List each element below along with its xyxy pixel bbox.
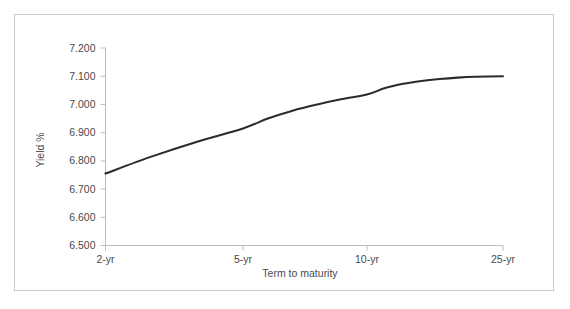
- y-tick-label: 7.200: [69, 42, 95, 54]
- y-axis: 7.2007.1007.0006.9006.8006.7006.6006.500…: [34, 42, 106, 252]
- y-tick-marks: [101, 48, 106, 246]
- y-tick-label: 7.100: [69, 70, 95, 82]
- y-tick-label: 6.800: [69, 154, 95, 166]
- yield-curve-line: [106, 76, 504, 173]
- x-tick-marks: [106, 246, 504, 251]
- y-axis-title: Yield %: [34, 132, 46, 167]
- y-tick-label: 6.500: [69, 239, 95, 251]
- yield-curve-chart: 7.2007.1007.0006.9006.8006.7006.6006.500…: [0, 0, 570, 309]
- y-tick-label: 6.900: [69, 126, 95, 138]
- x-tick-label: 5-yr: [234, 253, 253, 265]
- figure-container: 7.2007.1007.0006.9006.8006.7006.6006.500…: [0, 0, 570, 309]
- y-tick-label: 7.000: [69, 98, 95, 110]
- y-tick-label: 6.600: [69, 211, 95, 223]
- x-axis: 2-yr5-yr10-yr25-yr Term to maturity: [96, 246, 515, 280]
- x-tick-label: 2-yr: [96, 253, 115, 265]
- x-tick-label: 25-yr: [491, 253, 515, 265]
- x-axis-title: Term to maturity: [262, 267, 338, 279]
- x-tick-label: 10-yr: [355, 253, 379, 265]
- y-tick-label: 6.700: [69, 183, 95, 195]
- x-tick-labels: 2-yr5-yr10-yr25-yr: [96, 253, 515, 265]
- y-tick-labels: 7.2007.1007.0006.9006.8006.7006.6006.500: [69, 42, 95, 252]
